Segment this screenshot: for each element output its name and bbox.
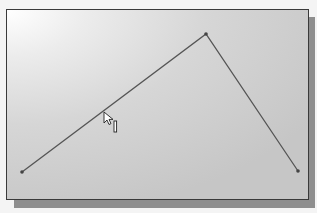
apex-point[interactable] [204,32,208,36]
arrow-pointer-icon [104,112,113,125]
sketch-canvas[interactable] [7,10,309,200]
end-point[interactable] [296,169,300,173]
sketch-viewport[interactable] [6,9,309,200]
start-point[interactable] [20,170,24,174]
cad-screen [0,0,317,213]
vertical-bar-icon [114,121,117,132]
sketch-polyline[interactable] [22,34,298,172]
